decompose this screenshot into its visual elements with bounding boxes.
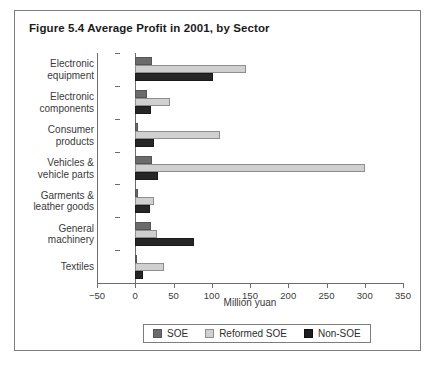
figure-title: Figure 5.4 Average Profit in 2001, by Se… (29, 22, 270, 34)
y-axis-category-label: General machinery (48, 222, 94, 245)
bar-soe-consumer-products (135, 123, 137, 131)
bar-soe-garments-leather-goods (135, 189, 137, 197)
bar-soe-electronic-equipment (135, 57, 152, 65)
y-axis-category-label: Electronic components (40, 91, 94, 114)
y-axis-category-label: Vehicles & vehicle parts (38, 157, 94, 180)
chart-legend: SOEReformed SOENon-SOE (143, 324, 371, 343)
bar-non-soe-garments-leather-goods (135, 205, 150, 213)
legend-label: Non-SOE (318, 328, 361, 339)
bar-reformed-soe-general-machinery (135, 230, 156, 238)
bar-reformed-soe-vehicles-vehicle-parts (135, 164, 365, 172)
legend-entry: Reformed SOE (205, 328, 287, 339)
bar-reformed-soe-electronic-components (135, 98, 169, 106)
y-axis-labels: Electronic equipmentElectronic component… (22, 53, 94, 283)
bar-soe-vehicles-vehicle-parts (135, 156, 152, 164)
plot-area: −50050100150200250300350 (97, 53, 403, 283)
x-axis-tick (97, 283, 98, 288)
bar-soe-textiles (135, 255, 137, 263)
figure-container: Figure 5.4 Average Profit in 2001, by Se… (0, 0, 437, 365)
bar-reformed-soe-consumer-products (135, 131, 220, 139)
x-axis-tick (174, 283, 175, 288)
bar-soe-general-machinery (135, 222, 151, 230)
bar-reformed-soe-textiles (135, 263, 164, 271)
bar-non-soe-electronic-equipment (135, 73, 212, 81)
legend-label: Reformed SOE (219, 328, 287, 339)
legend-swatch-icon (304, 329, 313, 338)
bar-soe-electronic-components (135, 90, 147, 98)
bar-non-soe-consumer-products (135, 139, 154, 147)
x-axis-tick (212, 283, 213, 288)
bar-non-soe-vehicles-vehicle-parts (135, 172, 158, 180)
y-axis-category-label: Garments & leather goods (33, 189, 94, 212)
x-axis-title: Million yuan (97, 297, 403, 308)
legend-swatch-icon (153, 329, 162, 338)
x-axis-tick (365, 283, 366, 288)
legend-entry: Non-SOE (304, 328, 361, 339)
x-axis-tick (250, 283, 251, 288)
bar-reformed-soe-garments-leather-goods (135, 197, 154, 205)
bar-non-soe-general-machinery (135, 238, 194, 246)
x-axis-tick (327, 283, 328, 288)
y-axis-category-label: Consumer products (48, 124, 94, 147)
y-axis-category-label: Electronic equipment (47, 58, 94, 81)
legend-entry: SOE (153, 328, 188, 339)
bar-non-soe-electronic-components (135, 106, 151, 114)
bar-non-soe-textiles (135, 271, 143, 279)
x-axis-tick (288, 283, 289, 288)
x-axis-tick (135, 283, 136, 288)
legend-swatch-icon (205, 329, 214, 338)
bar-reformed-soe-electronic-equipment (135, 65, 246, 73)
x-axis-tick (403, 283, 404, 288)
legend-label: SOE (167, 328, 188, 339)
y-axis-category-label: Textiles (61, 261, 94, 273)
